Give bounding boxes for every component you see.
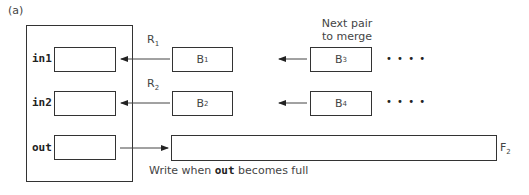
arrows <box>0 0 529 195</box>
